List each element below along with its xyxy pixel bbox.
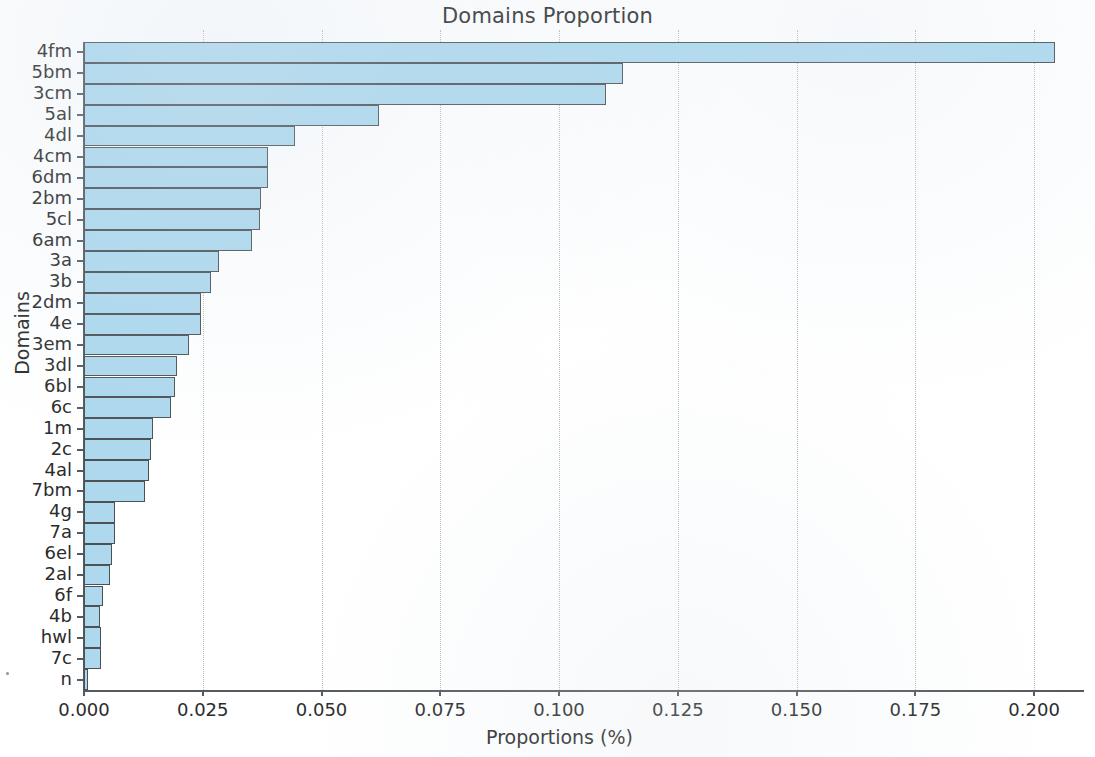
plot-area: 0.0000.0250.0500.0750.1000.1250.1500.175… (84, 42, 1084, 690)
y-tick-label: 5bm (0, 63, 72, 81)
bar (84, 627, 101, 648)
y-tick-mark (77, 93, 83, 95)
x-tick-label: 0.175 (855, 699, 975, 720)
plot-inner: 0.0000.0250.0500.0750.1000.1250.1500.175… (84, 42, 1084, 690)
y-tick-mark (77, 219, 83, 221)
bar (84, 230, 252, 251)
bar (84, 606, 100, 627)
bar (84, 293, 201, 314)
y-tick-label: 3dl (0, 356, 72, 374)
y-tick-label: 7c (0, 649, 72, 667)
y-tick-label: 4al (0, 461, 72, 479)
bar (84, 251, 219, 272)
x-tick-mark (677, 690, 679, 696)
bar (84, 272, 211, 293)
bar (84, 502, 115, 523)
y-tick-mark (77, 323, 83, 325)
y-tick-label: 7a (0, 523, 72, 541)
y-tick-label: 3cm (0, 84, 72, 102)
grid-line (678, 30, 680, 692)
grid-line (797, 30, 799, 692)
y-tick-mark (77, 365, 83, 367)
x-tick-label: 0.125 (618, 699, 738, 720)
y-tick-mark (77, 428, 83, 430)
x-tick-label: 0.100 (499, 699, 619, 720)
y-axis-label: Domains (11, 273, 33, 393)
y-tick-label: 3em (0, 335, 72, 353)
y-tick-label: 2dm (0, 293, 72, 311)
x-tick-label: 0.150 (737, 699, 857, 720)
y-tick-label: 1m (0, 419, 72, 437)
bar (84, 84, 606, 105)
bar (84, 397, 171, 418)
x-axis-label: Proportions (%) (84, 726, 1035, 748)
y-tick-mark (77, 553, 83, 555)
x-tick-mark (1033, 690, 1035, 696)
bar (84, 377, 175, 398)
bar (84, 188, 261, 209)
bar (84, 126, 295, 147)
y-tick-label: 6el (0, 544, 72, 562)
y-tick-label: 6dm (0, 168, 72, 186)
y-tick-mark (77, 114, 83, 116)
x-tick-mark (202, 690, 204, 696)
y-tick-mark (77, 595, 83, 597)
bar (84, 460, 149, 481)
bar (84, 523, 115, 544)
grid-line (440, 30, 442, 692)
grid-line (1034, 30, 1036, 692)
bar (84, 669, 88, 690)
y-tick-label: 4g (0, 502, 72, 520)
y-tick-label: 3a (0, 251, 72, 269)
y-tick-label: 4e (0, 314, 72, 332)
x-tick-mark (83, 690, 85, 696)
y-tick-label: 6f (0, 586, 72, 604)
grid-line (559, 30, 561, 692)
y-tick-mark (77, 72, 83, 74)
x-axis-spine (83, 690, 1084, 692)
y-tick-mark (77, 532, 83, 534)
y-tick-mark (77, 156, 83, 158)
y-tick-label: 2c (0, 440, 72, 458)
x-tick-mark (558, 690, 560, 696)
y-tick-label: 4b (0, 607, 72, 625)
y-tick-mark (77, 281, 83, 283)
y-tick-label: 4dl (0, 126, 72, 144)
bar (84, 105, 379, 126)
x-tick-label: 0.200 (974, 699, 1094, 720)
bar (84, 356, 177, 377)
bar (84, 209, 260, 230)
y-tick-mark (77, 198, 83, 200)
bar (84, 42, 1055, 63)
y-tick-label: 5al (0, 105, 72, 123)
y-tick-mark (77, 490, 83, 492)
bar (84, 63, 623, 84)
bar (84, 314, 201, 335)
scan-artifact-dot (6, 672, 9, 675)
bar (84, 335, 189, 356)
y-tick-mark (77, 511, 83, 513)
y-tick-mark (77, 177, 83, 179)
chart-figure: Domains Proportion Domains Proportions (… (0, 0, 1095, 757)
chart-title: Domains Proportion (0, 4, 1095, 28)
x-tick-mark (796, 690, 798, 696)
bar (84, 439, 151, 460)
y-tick-mark (77, 616, 83, 618)
bar (84, 544, 112, 565)
bar (84, 648, 101, 669)
bar (84, 418, 153, 439)
y-tick-label: 7bm (0, 481, 72, 499)
y-tick-mark (77, 407, 83, 409)
y-tick-mark (77, 386, 83, 388)
y-tick-label: 6am (0, 231, 72, 249)
x-tick-label: 0.000 (24, 699, 144, 720)
y-tick-mark (77, 135, 83, 137)
y-tick-mark (77, 637, 83, 639)
y-tick-label: 5cl (0, 210, 72, 228)
y-tick-mark (77, 51, 83, 53)
grid-line (322, 30, 324, 692)
y-tick-mark (77, 260, 83, 262)
y-tick-label: 3b (0, 272, 72, 290)
grid-line (915, 30, 917, 692)
y-tick-label: 2al (0, 565, 72, 583)
